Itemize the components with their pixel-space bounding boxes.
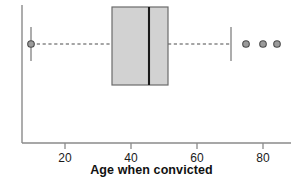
x-axis-title: Age when convicted <box>0 163 303 177</box>
outlier-point <box>28 41 35 48</box>
x-axis-ticks <box>65 143 263 149</box>
outlier-point <box>274 41 281 48</box>
outlier-point <box>243 41 250 48</box>
box-plot-figure: 20 40 60 80 Age when convicted <box>0 0 303 187</box>
outlier-point <box>260 41 267 48</box>
iqr-box <box>112 7 168 85</box>
